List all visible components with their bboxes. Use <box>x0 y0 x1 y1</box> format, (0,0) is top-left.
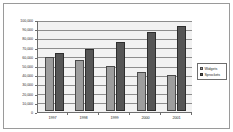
bar-widgets-1999[interactable] <box>106 66 115 111</box>
x-axis: 19971998199920002001 <box>37 114 192 124</box>
plot-wrap <box>37 21 192 113</box>
chart-screenshot: 010,00020,00030,00040,00050,00060,00070,… <box>0 0 233 132</box>
bar-group <box>39 21 70 111</box>
plot-area <box>37 21 192 113</box>
bar-group <box>70 21 101 111</box>
y-axis-tick-label: 70,000 <box>22 47 33 51</box>
bar-sprockets-2000[interactable] <box>147 32 156 111</box>
chart-canvas: 010,00020,00030,00040,00050,00060,00070,… <box>10 10 225 124</box>
y-axis-tick-label: 30,000 <box>22 83 33 87</box>
y-axis: 010,00020,00030,00040,00050,00060,00070,… <box>10 21 37 113</box>
bar-sprockets-1999[interactable] <box>116 42 125 111</box>
bar-group <box>161 21 192 111</box>
bar-widgets-2000[interactable] <box>137 72 146 111</box>
bar-sprockets-2001[interactable] <box>177 26 186 111</box>
bar-sprockets-1997[interactable] <box>55 53 64 111</box>
bar-groups <box>39 21 192 111</box>
x-axis-tick-label: 1999 <box>99 114 130 124</box>
bar-widgets-1998[interactable] <box>75 60 84 111</box>
bar-widgets-2001[interactable] <box>167 75 176 111</box>
y-axis-tick-label: 60,000 <box>22 56 33 60</box>
bar-group <box>131 21 162 111</box>
y-axis-tick-label: 100,000 <box>20 19 33 23</box>
chart-legend: WidgetsSprockets <box>197 63 227 80</box>
y-axis-tick-label: 10,000 <box>22 102 33 106</box>
legend-swatch-icon <box>200 73 204 77</box>
x-axis-tick-label: 1997 <box>37 114 68 124</box>
y-axis-tick-label: 80,000 <box>22 37 33 41</box>
y-axis-tick-label: 20,000 <box>22 93 33 97</box>
x-axis-tick-label: 2001 <box>161 114 192 124</box>
x-axis-tick-label: 1998 <box>68 114 99 124</box>
legend-swatch-icon <box>200 67 204 71</box>
legend-item-label: Widgets <box>205 67 218 71</box>
bar-sprockets-1998[interactable] <box>85 49 94 111</box>
y-axis-tick-label: 50,000 <box>22 65 33 69</box>
chart-frame: 010,00020,00030,00040,00050,00060,00070,… <box>3 3 230 129</box>
legend-item-sprockets[interactable]: Sprockets <box>200 72 226 78</box>
bar-group <box>100 21 131 111</box>
x-axis-tick-label: 2000 <box>130 114 161 124</box>
legend-item-label: Sprockets <box>205 73 221 77</box>
y-axis-tick-label: 40,000 <box>22 74 33 78</box>
y-axis-tick-label: 90,000 <box>22 28 33 32</box>
bar-widgets-1997[interactable] <box>45 57 54 111</box>
y-axis-tick-label: 0 <box>31 111 33 115</box>
